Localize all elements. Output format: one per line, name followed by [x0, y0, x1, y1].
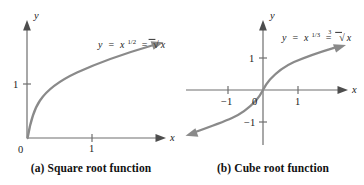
cube-root-plot: y x −1 1 1 −1 0 y = x 1/3 = √ x 3	[182, 0, 364, 162]
y-axis-label-b: y	[269, 10, 275, 21]
x-tick-label-neg1-b: −1	[221, 96, 232, 107]
eq-b-exponent: 1/3	[311, 31, 320, 38]
y-tick-label-neg1-b: −1	[244, 117, 255, 128]
eq-a-radical-sign: √	[153, 39, 159, 50]
origin-label-a: 0	[18, 144, 23, 155]
y-axis-label-a: y	[33, 10, 39, 21]
panel-cube-root: y x −1 1 1 −1 0 y = x 1/3 = √ x 3	[182, 0, 364, 185]
x-tick-label-1-a: 1	[89, 143, 94, 154]
eq-b-radical-sign: √	[339, 32, 345, 43]
origin-label-b: 0	[252, 96, 257, 107]
curve-arrowhead-b-left	[186, 128, 199, 137]
eq-b-equals-1: =	[292, 32, 298, 43]
x-tick-label-1-b: 1	[295, 96, 300, 107]
eq-a-radicand: x	[160, 39, 166, 50]
svg-text:y = x: y = x 1/2 = √ x	[97, 35, 166, 50]
eq-a-exponent: 1/2	[127, 38, 136, 45]
eq-a-lhs: y	[97, 39, 103, 50]
eq-a-base: x	[119, 39, 125, 50]
svg-text:y = x: y = x 1/3 = √ x	[281, 28, 352, 43]
y-tick-label-1-b: 1	[249, 53, 254, 64]
curve-square-root	[28, 46, 152, 139]
eq-b-radical-index: 3	[328, 29, 331, 35]
eq-b-lhs: y	[281, 32, 287, 43]
curve-arrowhead-b-right	[333, 44, 346, 52]
panel-square-root: y x 1 1 0 y = x 1/2 = √ x (a)	[0, 0, 182, 185]
equation-label-b: y = x 1/3 = √ x 3	[281, 28, 352, 43]
eq-a-equals-2: =	[142, 39, 148, 50]
caption-square-root: (a) Square root function	[0, 162, 182, 174]
equation-label-a: y = x 1/2 = √ x	[97, 35, 166, 50]
eq-a-equals-1: =	[108, 39, 114, 50]
x-axis-b	[186, 86, 348, 94]
y-tick-label-1-a: 1	[13, 79, 18, 90]
root-functions-figure: y x 1 1 0 y = x 1/2 = √ x (a)	[0, 0, 364, 185]
eq-b-base: x	[303, 32, 309, 43]
square-root-plot: y x 1 1 0 y = x 1/2 = √ x	[0, 0, 182, 162]
x-axis-label-b: x	[351, 84, 357, 95]
y-axis-a	[23, 20, 31, 138]
y-axis-b	[259, 20, 267, 145]
caption-cube-root: (b) Cube root function	[182, 162, 364, 174]
eq-b-radicand: x	[346, 32, 352, 43]
x-axis-label-a: x	[169, 132, 175, 143]
x-axis-a	[27, 134, 166, 142]
